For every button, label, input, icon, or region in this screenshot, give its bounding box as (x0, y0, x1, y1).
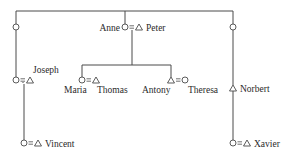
kinship-diagram: Joseph Vincent Anne Peter Maria Thomas (0, 0, 294, 158)
female-circle-icon (122, 24, 128, 30)
couple-maria-thomas: Maria Thomas (64, 77, 128, 95)
female-circle-icon (13, 24, 19, 30)
person-label-norbert: Norbert (240, 84, 270, 94)
male-triangle-icon (230, 85, 237, 91)
male-triangle-icon (35, 140, 42, 146)
person-label-antony: Antony (142, 85, 171, 95)
male-triangle-icon (27, 77, 34, 83)
person-label-anne: Anne (99, 23, 120, 33)
male-triangle-icon (93, 77, 100, 83)
person-label-theresa: Theresa (188, 85, 219, 95)
male-triangle-icon (244, 140, 251, 146)
sibling-line-top (16, 11, 233, 24)
person-label-peter: Peter (146, 23, 166, 33)
person-label-vincent: Vincent (45, 139, 75, 149)
female-circle-icon (230, 140, 236, 146)
male-triangle-icon (168, 77, 175, 83)
couple-antony-theresa: Antony Theresa (142, 77, 219, 95)
person-label-thomas: Thomas (97, 85, 128, 95)
person-label-maria: Maria (64, 85, 87, 95)
female-circle-icon (13, 77, 19, 83)
person-label-xavier: Xavier (254, 139, 281, 149)
female-circle-icon (182, 77, 188, 83)
center-couple: Anne Peter (82, 23, 171, 77)
person-label-joseph: Joseph (33, 65, 59, 75)
female-circle-icon (230, 24, 236, 30)
male-triangle-icon (136, 24, 143, 30)
right-branch: Norbert Xavier (230, 24, 281, 149)
female-circle-icon (21, 140, 27, 146)
female-circle-icon (79, 77, 85, 83)
